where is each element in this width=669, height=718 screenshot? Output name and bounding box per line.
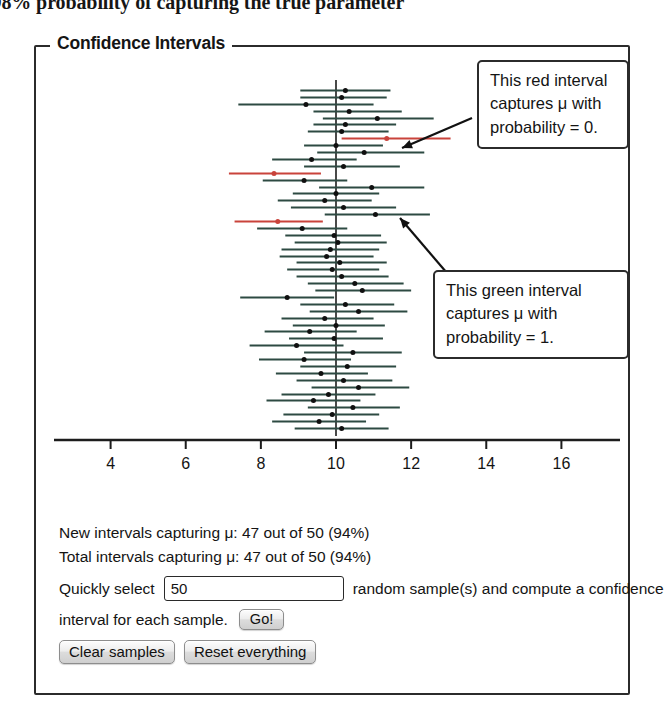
interval-row — [308, 281, 404, 286]
callout-red-line2: captures μ with — [490, 92, 616, 115]
callout-green-line3: probability = 1. — [446, 326, 616, 349]
interval-row — [304, 143, 383, 148]
sample-count-input[interactable] — [164, 576, 344, 601]
interval-row — [280, 254, 374, 259]
interval-row: interval for each sample. Go! — [59, 609, 284, 630]
callout-green-line1: This green interval — [446, 279, 616, 302]
interval-row — [313, 122, 396, 127]
callout-green-line2: captures μ with — [446, 302, 616, 325]
go-button[interactable]: Go! — [239, 609, 284, 630]
x-axis-tick-label: 6 — [181, 455, 190, 472]
interval-row — [287, 267, 379, 272]
interval-row — [238, 102, 373, 107]
interval-row — [312, 385, 410, 390]
quick-select-prefix-label: Quickly select — [59, 580, 155, 598]
interval-row — [297, 260, 387, 265]
interval-row — [263, 178, 348, 183]
interval-row — [323, 116, 434, 121]
interval-row — [310, 309, 408, 314]
interval-for-each-sample-label: interval for each sample. — [59, 611, 228, 629]
interval-row — [272, 419, 366, 424]
reset-everything-button[interactable]: Reset everything — [184, 640, 317, 664]
interval-row — [317, 150, 424, 155]
interval-row — [295, 426, 389, 431]
interval-row — [276, 371, 368, 376]
interval-row — [300, 364, 396, 369]
quick-select-suffix-label: random sample(s) and compute a confidenc… — [353, 580, 664, 598]
quick-select-row: Quickly select random sample(s) and comp… — [59, 576, 664, 601]
interval-row — [293, 191, 379, 196]
interval-row — [297, 274, 389, 279]
interval-row — [304, 164, 400, 169]
interval-row — [257, 226, 347, 231]
groupbox-title: Confidence Intervals — [50, 33, 232, 54]
interval-row — [325, 212, 430, 217]
page-top-sentence: ce interval has a 98% probability of cap… — [0, 0, 669, 14]
interval-row — [293, 323, 385, 328]
interval-row — [240, 295, 334, 300]
interval-row — [282, 247, 380, 252]
interval-row — [272, 157, 357, 162]
x-axis-tick-label: 12 — [402, 455, 420, 472]
clear-samples-button[interactable]: Clear samples — [59, 640, 175, 664]
interval-row — [291, 205, 396, 210]
interval-row — [319, 185, 424, 190]
callout-red-line3: probability = 0. — [490, 116, 616, 139]
interval-row — [300, 95, 386, 100]
interval-row-missed — [229, 171, 321, 176]
interval-row — [313, 109, 401, 114]
interval-row — [304, 350, 402, 355]
interval-row — [300, 88, 390, 93]
interval-row — [282, 392, 376, 397]
callout-red-line1: This red interval — [490, 69, 616, 92]
x-axis-tick-label: 8 — [256, 455, 265, 472]
interval-row — [308, 405, 400, 410]
interval-row — [300, 302, 394, 307]
interval-row — [265, 329, 357, 334]
interval-row — [259, 357, 351, 362]
control-panel: New intervals capturing μ: 47 out of 50 … — [36, 488, 628, 693]
interval-row — [282, 316, 374, 321]
interval-row-missed — [235, 219, 323, 224]
x-axis-tick-label: 14 — [477, 455, 495, 472]
interval-row — [267, 398, 361, 403]
interval-row — [308, 129, 389, 134]
interval-row — [278, 198, 372, 203]
x-axis-tick-label: 16 — [553, 455, 571, 472]
interval-row — [295, 240, 387, 245]
interval-row — [250, 343, 344, 348]
stat-new-intervals: New intervals capturing μ: 47 out of 50 … — [59, 524, 369, 542]
interval-row — [315, 288, 411, 293]
callout-green-interval: This green interval captures μ with prob… — [433, 270, 629, 359]
interval-row — [285, 233, 381, 238]
interval-row-missed — [342, 136, 451, 141]
stat-total-intervals: Total intervals capturing μ: 47 out of 5… — [59, 548, 371, 566]
x-axis-tick-label: 10 — [327, 455, 345, 472]
x-axis-tick-label: 4 — [106, 455, 115, 472]
interval-row — [297, 378, 393, 383]
callout-red-interval: This red interval captures μ with probab… — [477, 60, 629, 149]
interval-row — [283, 412, 379, 417]
action-buttons-row: Clear samples Reset everything — [59, 640, 316, 664]
